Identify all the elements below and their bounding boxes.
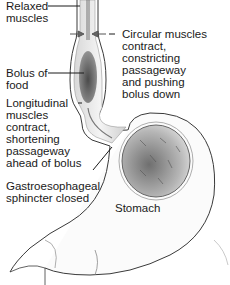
- label-stomach: Stomach: [115, 202, 160, 214]
- bolus-shape: [79, 51, 97, 103]
- label-bolus-of-food: Bolus of food: [6, 67, 48, 91]
- esophagus-diagram: Relaxed muscles Circular muscles contrac…: [0, 0, 230, 285]
- label-relaxed-muscles: Relaxed muscles: [6, 0, 48, 24]
- label-circular-muscles: Circular muscles contract, constricting …: [122, 28, 207, 100]
- label-sphincter: Gastroesophageal sphincter closed: [6, 180, 100, 204]
- label-longitudinal-muscles: Longitudinal muscles contract, shortenin…: [6, 97, 81, 169]
